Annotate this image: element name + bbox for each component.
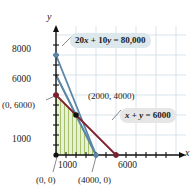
x-intercept-point-label: (4000, 0): [78, 175, 111, 185]
y-intercept-point-label: (0, 6000): [2, 100, 35, 110]
linear-programming-graph: 20x + 10y = 80,000 x + y = 6000 (2000, 4…: [0, 0, 196, 196]
x-tick-label-6000: 6000: [118, 160, 137, 170]
point-origin: [53, 152, 58, 157]
cost-var-y: y: [107, 35, 111, 45]
cost-line-label: 20x + 10y = 80,000: [70, 33, 151, 48]
point-y-intercept-6000: [53, 92, 59, 98]
point-y-intercept-8000: [53, 52, 58, 57]
supply-var-y: y: [139, 110, 143, 120]
cost-coef-y: 10: [98, 35, 107, 45]
cost-var-x: x: [84, 35, 89, 45]
y-tick-label-6000: 6000: [12, 74, 31, 84]
cost-coef-x: 20: [75, 35, 84, 45]
cost-plus: +: [91, 35, 96, 45]
y-axis-label: y: [47, 12, 51, 22]
origin-point-label: (0, 0): [36, 175, 56, 185]
supply-value: 6000: [153, 110, 171, 120]
point-x-intercept-6000: [113, 152, 119, 158]
cost-value: 80,000: [121, 35, 146, 45]
supply-var-x: x: [125, 110, 130, 120]
cost-equals: =: [113, 35, 118, 45]
supply-plus: +: [132, 110, 137, 120]
supply-equals: =: [145, 110, 150, 120]
y-tick-label-1000: 1000: [12, 134, 31, 144]
x-axis-label: x: [185, 148, 189, 158]
y-tick-label-8000: 8000: [12, 44, 31, 54]
point-x-intercept-4000: [93, 152, 98, 157]
x-tick-label-1000: 1000: [58, 160, 77, 170]
point-intersection: [73, 112, 79, 118]
intersection-point-label: (2000, 4000): [88, 91, 135, 101]
supply-line-label: x + y = 6000: [120, 108, 176, 123]
